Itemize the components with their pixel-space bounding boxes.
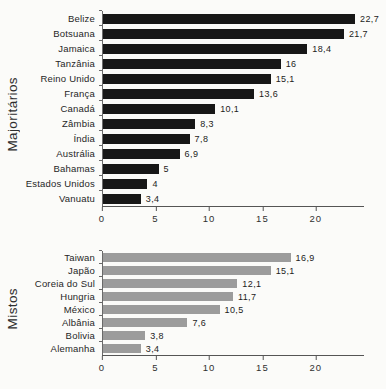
category-label: Austrália: [24, 148, 102, 159]
category-label: Albânia: [24, 317, 102, 328]
bar-row: Hungria11,7: [24, 290, 375, 303]
value-label: 7,6: [192, 318, 206, 328]
bar: [103, 44, 307, 54]
bar-row: Estados Unidos4: [24, 176, 375, 191]
bar-track: 22,7: [102, 11, 375, 26]
bar: [103, 305, 220, 314]
bar-track: 12,1: [102, 277, 375, 290]
bar: [103, 164, 159, 174]
bar-row: Botsuana21,7: [24, 26, 375, 41]
bar: [103, 292, 233, 301]
bar-track: 21,7: [102, 26, 375, 41]
bar-row: Austrália6,9: [24, 146, 375, 161]
bar-row: Zâmbia8,3: [24, 116, 375, 131]
x-tick-label: 5: [152, 356, 158, 373]
bar-track: 8,3: [102, 116, 375, 131]
bar-track: 3,4: [102, 342, 375, 355]
bar: [103, 253, 291, 262]
bar-row: Vanuatu3,4: [24, 191, 375, 206]
bar-row: Japão15,1: [24, 264, 375, 277]
bar: [103, 331, 145, 340]
chart-majoritarios: Majoritários Belize22,7Botsuana21,7Jamai…: [0, 11, 386, 231]
value-label: 11,7: [238, 292, 256, 302]
bar-row: Albânia7,6: [24, 316, 375, 329]
chart-mistos: Mistos Taiwan16,9Japão15,1Coreia do Sul1…: [0, 251, 386, 380]
value-label: 16,9: [296, 253, 315, 263]
category-label: Canadá: [24, 103, 102, 114]
bar-track: 10,1: [102, 101, 375, 116]
category-label: Reino Unido: [24, 73, 102, 84]
value-label: 22,7: [360, 14, 379, 24]
bar-row: Coreia do Sul12,1: [24, 277, 375, 290]
y-axis-title-mistos: Mistos: [5, 288, 20, 329]
x-tick-label: 20: [310, 207, 323, 224]
x-tick-label: 20: [310, 356, 323, 373]
bar: [103, 149, 180, 159]
rows: Belize22,7Botsuana21,7Jamaica18,4Tanzâni…: [24, 11, 375, 206]
bar: [103, 279, 237, 288]
value-label: 10,5: [225, 305, 244, 315]
category-label: Coreia do Sul: [24, 278, 102, 289]
value-label: 5: [164, 164, 169, 174]
bar: [103, 179, 147, 189]
x-tick-label: 10: [203, 207, 216, 224]
bar-row: Tanzânia16: [24, 56, 375, 71]
category-label: Hungria: [24, 291, 102, 302]
bar: [103, 119, 195, 129]
dual-bar-chart-figure: Majoritários Belize22,7Botsuana21,7Jamai…: [0, 0, 386, 389]
x-tick-label: 15: [256, 207, 269, 224]
y-axis-title-majoritarios: Majoritários: [5, 77, 20, 152]
bar-row: Belize22,7: [24, 11, 375, 26]
value-label: 15,1: [276, 74, 295, 84]
bar: [103, 134, 190, 144]
bar-row: Índia7,8: [24, 131, 375, 146]
rows: Taiwan16,9Japão15,1Coreia do Sul12,1Hung…: [24, 251, 375, 355]
bar-track: 15,1: [102, 71, 375, 86]
category-label: Índia: [24, 133, 102, 144]
bar: [103, 74, 271, 84]
value-label: 7,8: [195, 134, 209, 144]
value-label: 12,1: [242, 279, 261, 289]
bar-row: México10,5: [24, 303, 375, 316]
category-label: Alemanha: [24, 343, 102, 354]
value-label: 18,4: [312, 44, 331, 54]
category-label: Belize: [24, 13, 102, 24]
x-axis: 05101520: [102, 355, 364, 380]
bar-track: 6,9: [102, 146, 375, 161]
category-label: Zâmbia: [24, 118, 102, 129]
bar-track: 11,7: [102, 290, 375, 303]
category-label: Botsuana: [24, 28, 102, 39]
value-label: 3,4: [146, 344, 160, 354]
category-label: México: [24, 304, 102, 315]
bar-track: 7,6: [102, 316, 375, 329]
category-label: Tanzânia: [24, 58, 102, 69]
chart-body: Belize22,7Botsuana21,7Jamaica18,4Tanzâni…: [24, 11, 386, 231]
bar-track: 13,6: [102, 86, 375, 101]
value-label: 16: [286, 59, 297, 69]
bar: [103, 104, 215, 114]
y-axis-title-wrap: Majoritários: [0, 11, 24, 231]
x-tick-label: 0: [99, 356, 105, 373]
bar-track: 4: [102, 176, 375, 191]
category-label: Vanuatu: [24, 193, 102, 204]
bar-track: 18,4: [102, 41, 375, 56]
bar: [103, 318, 187, 327]
bar: [103, 14, 355, 24]
value-label: 10,1: [220, 104, 239, 114]
category-label: Taiwan: [24, 252, 102, 263]
x-tick-label: 10: [203, 356, 216, 373]
bar-row: França13,6: [24, 86, 375, 101]
bar-track: 16,9: [102, 251, 375, 264]
x-tick-label: 15: [256, 356, 269, 373]
bar: [103, 194, 141, 204]
category-label: Japão: [24, 265, 102, 276]
value-label: 6,9: [185, 149, 199, 159]
bar: [103, 89, 254, 99]
bar-track: 10,5: [102, 303, 375, 316]
bar-row: Jamaica18,4: [24, 41, 375, 56]
bar-track: 3,8: [102, 329, 375, 342]
bar: [103, 59, 281, 69]
category-label: França: [24, 88, 102, 99]
category-label: Bahamas: [24, 163, 102, 174]
value-label: 4: [152, 179, 157, 189]
